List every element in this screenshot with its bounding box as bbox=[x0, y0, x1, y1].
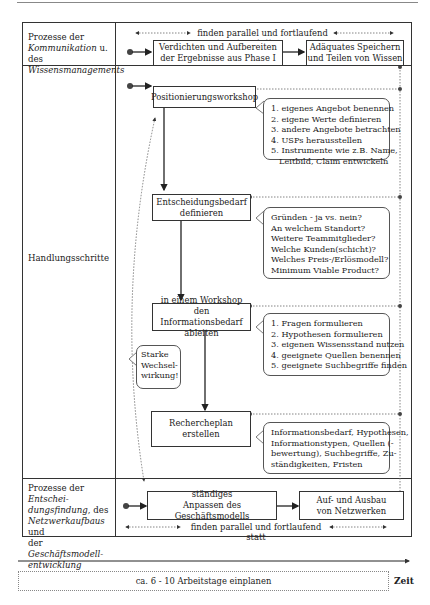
parallel-note-bottom: finden parallel und fortlaufend statt bbox=[180, 522, 332, 542]
note-line: wirkung! bbox=[141, 370, 176, 381]
step-build-networks: Auf- und Ausbau von Netzwerken bbox=[299, 491, 404, 520]
detail-item: ständigkeiten, Fristen bbox=[271, 459, 384, 470]
detail-item: 3. eigenen Wissensstand nutzen bbox=[271, 339, 384, 350]
detail-item: 1. Fragen formulieren bbox=[271, 318, 384, 329]
detail-item: Gründen - ja vs. nein? bbox=[271, 212, 384, 223]
step-positioning-workshop: Positionierungsworkshop bbox=[153, 86, 256, 108]
time-axis-label: Zeit bbox=[394, 576, 414, 586]
step-condense-results: Verdichten und Aufbereiten der Ergebniss… bbox=[153, 40, 283, 66]
detail-item: Welche Kunden(schicht)? bbox=[271, 244, 384, 255]
detail-item: 4. geeignete Quellen benennen bbox=[271, 350, 384, 361]
step-store-share-knowledge: Adäquates Speichern und Teilen von Wisse… bbox=[306, 40, 404, 66]
detail-item: An welchem Standort? bbox=[271, 223, 384, 234]
detail-item: 2. Hypothesen formulieren bbox=[271, 329, 384, 340]
bubble-decision-questions: Gründen - ja vs. nein? An welchem Stando… bbox=[263, 207, 390, 279]
detail-item: bewertung), Suchbegriffe, Zu- bbox=[271, 448, 384, 459]
detail-item: 5. geeignete Suchbegriffe finden bbox=[271, 360, 384, 371]
detail-item: Informationsbedarf, Hypothesen, bbox=[271, 427, 384, 438]
detail-item: Minimum Viable Product? bbox=[271, 265, 384, 276]
step-adapt-business-model: ständiges Anpassen des Geschäftsmodells bbox=[147, 491, 277, 520]
note-line: Wechsel- bbox=[141, 360, 176, 371]
step-define-decision-need: Entscheidungsbedarf definieren bbox=[152, 194, 251, 221]
detail-item: Leitbild, Claim entwickeln bbox=[271, 156, 384, 167]
detail-item: Welches Preis-/Erlösmodell? bbox=[271, 254, 384, 265]
bubble-research-plan-details: Informationsbedarf, Hypothesen, Informat… bbox=[263, 422, 390, 474]
detail-item: 1. eigenes Angebot benennen bbox=[271, 103, 384, 114]
step-derive-information-need: in einem Workshop den Informationsbedarf… bbox=[152, 303, 251, 331]
detail-item: 2. eigene Werte definieren bbox=[271, 114, 384, 125]
bubble-information-need-details: 1. Fragen formulieren 2. Hypothesen form… bbox=[263, 313, 390, 376]
detail-item: Informationstypen, Quellen (- bbox=[271, 438, 384, 449]
detail-item: 5. Instrumente wie z.B. Name, bbox=[271, 145, 384, 156]
detail-item: 4. USPs herausstellen bbox=[271, 135, 384, 146]
duration-box: ca. 6 - 10 Arbeitstage einplanen bbox=[18, 571, 389, 591]
note-line: Starke bbox=[141, 349, 176, 360]
detail-item: 3. andere Angebote betrachten bbox=[271, 124, 384, 135]
bubble-positioning-details: 1. eigenes Angebot benennen 2. eigene We… bbox=[263, 98, 390, 160]
bubble-strong-interaction: Starke Wechsel- wirkung! bbox=[136, 345, 181, 389]
step-research-plan: Rechercheplan erstellen bbox=[151, 411, 251, 447]
detail-item: Weitere Teammitglieder? bbox=[271, 233, 384, 244]
